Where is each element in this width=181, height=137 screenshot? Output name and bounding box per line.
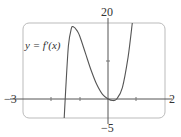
curve-label: y = f′(x) bbox=[25, 39, 60, 51]
plot-frame bbox=[23, 23, 165, 118]
y-min-label: −5 bbox=[101, 122, 114, 134]
x-max-label: 2 bbox=[169, 93, 175, 105]
axis-ticks bbox=[51, 61, 136, 101]
curve-f-prime bbox=[64, 23, 132, 118]
x-min-label: −3 bbox=[4, 93, 17, 105]
y-max-label: 20 bbox=[101, 6, 113, 18]
chart-plot bbox=[0, 0, 181, 137]
